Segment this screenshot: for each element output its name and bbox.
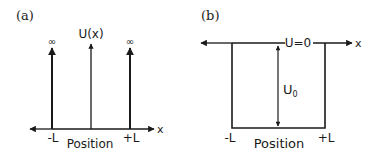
panel-b-label: (b)	[201, 8, 219, 23]
right-wall-label: +L	[318, 131, 335, 145]
left-infinity-symbol: ∞	[48, 36, 56, 47]
x-axis-label: x	[157, 123, 164, 136]
panel-a: (a) x ∞ U(x) ∞ -L Position +L	[16, 8, 164, 151]
position-label: Position	[67, 137, 114, 151]
depth-label: U0	[283, 82, 298, 99]
right-wall-label: +L	[123, 131, 140, 145]
position-label: Position	[254, 136, 305, 151]
u-axis-label: U(x)	[78, 27, 103, 41]
left-wall-label: -L	[224, 131, 235, 145]
right-infinity-symbol: ∞	[126, 36, 134, 47]
panel-a-label: (a)	[16, 8, 34, 23]
left-wall-label: -L	[47, 131, 58, 145]
zero-potential-label: U=0	[285, 36, 311, 50]
x-axis-label: x	[355, 37, 362, 50]
panel-b: (b) U=0 x U0 -L Position +L	[201, 8, 362, 151]
potential-well-diagrams: (a) x ∞ U(x) ∞ -L Position +L (b) U=0 x …	[0, 0, 381, 156]
